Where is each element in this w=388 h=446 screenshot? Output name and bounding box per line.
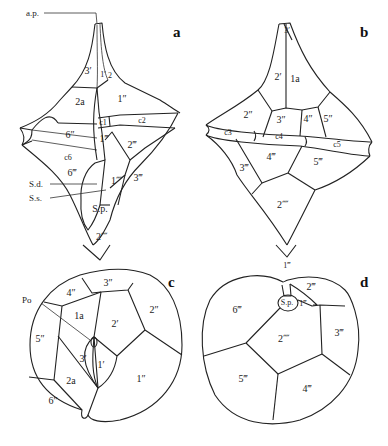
plate-label: 4‴ bbox=[302, 383, 312, 394]
panel-c: Po 3″ 4″ 2″ 1a 2′ 5″ 3′ 1′ 2a 1″ 6″ c bbox=[22, 245, 182, 422]
plate-label: 5‴ bbox=[313, 156, 323, 167]
annotation-sd: S.d. bbox=[29, 179, 43, 189]
plate-label: c5 bbox=[333, 140, 341, 149]
annotation-ss: S.s. bbox=[29, 193, 42, 203]
plate-label: 2⁗ bbox=[96, 231, 108, 242]
plate-label: 1⁗ bbox=[111, 175, 123, 186]
plate-label: 2⁗ bbox=[277, 199, 289, 210]
plate-label: 3′ bbox=[79, 353, 86, 364]
plate-label: 3″ bbox=[276, 114, 285, 125]
plate-label: c6 bbox=[64, 153, 72, 162]
outline-a-right-upper bbox=[95, 23, 180, 113]
plate-label: c1 bbox=[99, 118, 107, 127]
plate-label: 2′ bbox=[111, 318, 118, 329]
plate-label: S.p. bbox=[281, 298, 293, 307]
annotation-po: Po bbox=[22, 295, 32, 305]
plate-label: 6‴ bbox=[67, 167, 77, 178]
plate-label: 2′ bbox=[274, 71, 281, 82]
plate-label: 2a bbox=[66, 375, 76, 386]
panel-label-c: c bbox=[168, 274, 175, 290]
plate-label: 1a bbox=[290, 73, 300, 84]
plate-label: 3″ bbox=[103, 277, 112, 288]
plate-label: 2‴ bbox=[306, 281, 316, 292]
plate-label: 6‴ bbox=[232, 304, 242, 315]
plate-label: c3 bbox=[224, 128, 232, 137]
plate-label: c2 bbox=[138, 116, 146, 125]
arrow-tip-a bbox=[83, 245, 110, 260]
plate-label: 1″ bbox=[136, 373, 145, 384]
panel-label-b: b bbox=[360, 24, 368, 40]
sulcal-plate-sp bbox=[81, 160, 105, 230]
plate-label: 1‴ bbox=[299, 299, 307, 308]
plate-label: 1‴ bbox=[283, 261, 291, 270]
plate-label: 3′ bbox=[84, 65, 91, 76]
plate-label: 3′ bbox=[284, 26, 290, 35]
plate-label: 5‴ bbox=[238, 373, 248, 384]
plate-label: 1′ bbox=[97, 359, 104, 370]
plate-label: 3‴ bbox=[334, 327, 344, 338]
plate-label: 4″ bbox=[303, 113, 312, 124]
plate-label: 2⁗ bbox=[278, 333, 290, 344]
panel-d: 1‴ 2‴ S.p. 1‴ 6‴ 2⁗ 3‴ 5‴ 4‴ d bbox=[202, 245, 369, 424]
plate-label: 1‴ bbox=[99, 133, 109, 144]
plate-label: 1a bbox=[74, 310, 84, 321]
plate-label: 4‴ bbox=[266, 151, 276, 162]
panel-label-d: d bbox=[360, 274, 369, 290]
panel-b: 3′ 2′ 1a 2″ 3″ 4″ 5″ c3 c4 c5 3‴ 4‴ 5‴ 2… bbox=[206, 23, 372, 245]
plate-label: c4 bbox=[275, 132, 283, 141]
plate-label: 5″ bbox=[35, 333, 44, 344]
plate-label: 2″ bbox=[149, 304, 158, 315]
arrow-tip-b bbox=[276, 245, 296, 257]
plate-label: 4″ bbox=[66, 287, 75, 298]
plate-label: 1″ bbox=[117, 93, 126, 104]
annotation-ap: a.p. bbox=[26, 8, 39, 18]
dinoflagellate-plate-diagram: a.p. S.d. S.s. 3′ 1′ 2 2a 1″ 6″ c1 c2 c6… bbox=[0, 0, 388, 446]
plate-label: 1′ bbox=[100, 70, 106, 79]
plate-label: 2 bbox=[108, 71, 112, 80]
plate-label: 2a bbox=[75, 96, 85, 107]
panel-label-a: a bbox=[173, 24, 181, 40]
plate-label: S.p. bbox=[92, 203, 108, 214]
plate-label: 2″ bbox=[243, 109, 252, 120]
plate-label: 6″ bbox=[48, 395, 57, 406]
plate-label: 6″ bbox=[65, 129, 74, 140]
plate-label: 2‴ bbox=[127, 139, 137, 150]
plate-label: 5″ bbox=[323, 113, 332, 124]
plate-label: 3‴ bbox=[239, 162, 249, 173]
plate-label: 3‴ bbox=[133, 172, 143, 183]
panel-a: a.p. S.d. S.s. 3′ 1′ 2 2a 1″ 6″ c1 c2 c6… bbox=[20, 8, 181, 245]
